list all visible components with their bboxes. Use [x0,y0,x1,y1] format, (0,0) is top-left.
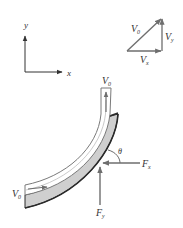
fy-label: Fy [95,207,105,219]
coordinate-axes: y x [23,20,71,78]
pipe-bend-diagram: y x V0 Vy Vx V0 V0 [0,0,183,228]
velocity-triangle: V0 Vy Vx [127,19,174,66]
theta-label: θ [118,147,122,156]
vx-triangle-label: Vx [140,54,149,66]
pipe-bend: V0 V0 [12,75,118,208]
fx-label: Fx [141,158,151,170]
y-axis-label: y [23,20,28,30]
outlet-velocity-label: V0 [102,75,111,87]
inlet-velocity-label: V0 [12,188,21,200]
x-axis-label: x [66,68,71,78]
v0-triangle-label: V0 [131,23,140,35]
reaction-forces: θ Fx Fy [95,147,151,219]
vy-triangle-label: Vy [165,31,174,43]
